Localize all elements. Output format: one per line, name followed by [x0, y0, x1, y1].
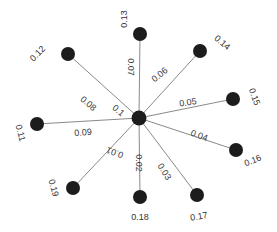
node-label-n11: 0.11 [14, 123, 28, 142]
edge-n17 [139, 118, 197, 195]
edge-label-n16: 0.04 [189, 128, 209, 143]
node-label-n16: 0.16 [243, 153, 263, 169]
edge-label-n17: 0.03 [156, 162, 174, 182]
node-n14 [193, 44, 207, 58]
node-label-n17: 0.17 [189, 210, 208, 223]
node-n17 [190, 188, 204, 202]
edge-label-n14: 0.06 [150, 65, 170, 84]
node-n12 [61, 47, 75, 61]
edge-label-n11: 0.09 [74, 127, 92, 138]
edge-n13 [139, 34, 140, 118]
edge-label-n13: 0.07 [126, 58, 136, 76]
edge-n11 [37, 118, 139, 124]
node-label-n14: 0.14 [212, 33, 232, 52]
hub-node [132, 111, 147, 126]
edge-label-n18: 0.02 [134, 154, 144, 172]
node-label-n13: 0.13 [119, 10, 129, 28]
node-label-n15: 0.15 [247, 87, 262, 107]
node-n15 [226, 92, 240, 106]
edge-label-n12: 0.08 [78, 94, 98, 113]
node-label-n19: 0.19 [47, 178, 61, 198]
star-graph-diagram: 0.090.080.070.060.050.040.030.020.010.1 … [0, 0, 277, 232]
node-n11 [30, 117, 44, 131]
node-label-n18: 0.18 [131, 212, 149, 222]
node-n18 [133, 190, 147, 204]
node-n16 [229, 143, 243, 157]
node-label-n12: 0.12 [28, 44, 47, 63]
edge-n16 [139, 118, 236, 150]
edge-label-n19: 0.01 [105, 145, 125, 160]
node-n19 [66, 181, 80, 195]
node-n13 [133, 27, 147, 41]
